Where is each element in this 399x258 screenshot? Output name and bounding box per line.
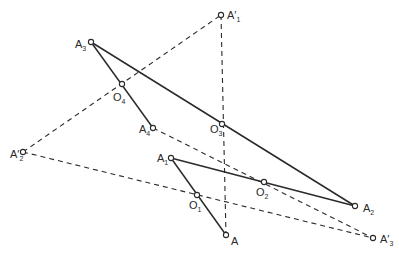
point-label-o1: O1 — [189, 199, 202, 213]
point-marker-a3p — [370, 235, 375, 240]
point-marker-a2p — [20, 149, 25, 154]
point-label-a1p: A′1 — [227, 9, 240, 23]
point-label-a4: A4 — [139, 123, 150, 137]
point-label-a: A — [231, 235, 239, 247]
point-label-a3p: A′3 — [380, 233, 393, 247]
point-label-o2: O2 — [256, 186, 269, 200]
geometry-diagram: A′1A3O4A4O3A′2A1O2O1A2AA′3 — [0, 0, 399, 258]
point-label-a3: A3 — [75, 38, 86, 52]
point-marker-o2 — [261, 179, 266, 184]
point-marker-a3 — [88, 39, 93, 44]
point-label-o4: O4 — [113, 91, 126, 105]
point-label-a1: A1 — [157, 152, 168, 166]
point-labels: A′1A3O4A4O3A′2A1O2O1A2AA′3 — [10, 9, 393, 247]
point-marker-o3 — [219, 121, 224, 126]
point-marker-a1p — [218, 12, 223, 17]
point-marker-a2 — [352, 203, 357, 208]
point-marker-a1 — [168, 155, 173, 160]
point-marker-o1 — [194, 192, 199, 197]
point-label-a2: A2 — [363, 202, 374, 216]
point-marker-o4 — [119, 81, 124, 86]
solid-segments — [91, 42, 355, 235]
point-marker-a4 — [150, 125, 155, 130]
point-marker-a — [223, 232, 228, 237]
